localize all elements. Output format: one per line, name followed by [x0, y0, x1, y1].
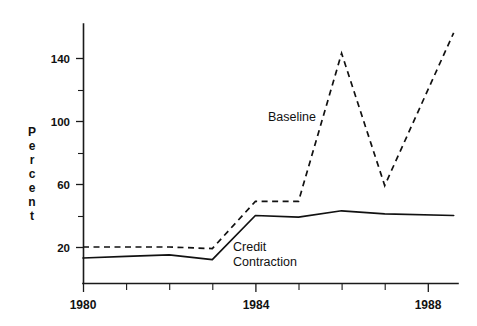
series-label-credit-contraction-line2: Contraction	[233, 255, 297, 269]
y-ticklabel-100: 100	[51, 116, 70, 128]
x-axis-tick-labels: 1980 1984 1988	[70, 298, 442, 312]
x-ticklabel-1984: 1984	[243, 298, 270, 312]
y-axis-title-letter-t: t	[30, 209, 34, 223]
y-axis-title-letter-n: n	[28, 195, 35, 209]
y-axis-tick-labels: 20 60 100 140	[51, 53, 70, 254]
y-ticklabel-140: 140	[51, 53, 70, 65]
x-ticklabel-1988: 1988	[415, 298, 442, 312]
y-axis-title: P e r c e n t	[28, 125, 36, 223]
series-line-credit-contraction	[83, 211, 454, 260]
line-chart-canvas: 20 60 100 140 1980 1984 1988 P e r	[0, 0, 477, 326]
y-ticklabel-60: 60	[57, 179, 70, 191]
y-axis-title-letter-e1: e	[29, 139, 36, 153]
y-axis-title-letter-P: P	[28, 125, 36, 139]
series-label-credit-contraction-line1: Credit	[233, 240, 267, 254]
y-ticklabel-20: 20	[57, 242, 70, 254]
axes-group	[83, 24, 458, 284]
series-label-baseline: Baseline	[268, 110, 316, 124]
chart-figure: 20 60 100 140 1980 1984 1988 P e r	[0, 0, 477, 326]
x-axis-ticks	[84, 283, 429, 292]
y-axis-title-letter-e2: e	[29, 181, 36, 195]
y-axis-title-letter-r: r	[30, 153, 35, 167]
x-ticklabel-1980: 1980	[70, 298, 97, 312]
y-axis-title-letter-c: c	[29, 167, 36, 181]
